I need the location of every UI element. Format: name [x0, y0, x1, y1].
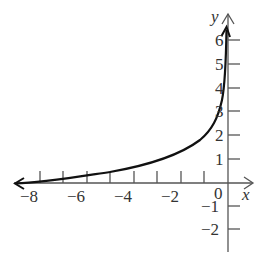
x-ticks: [40, 171, 204, 183]
x-tick-label: −6: [67, 187, 85, 206]
y-ticks: [228, 40, 240, 229]
x-tick-label: −2: [161, 187, 179, 206]
x-tick-label: −4: [114, 187, 133, 206]
x-axis-label: x: [241, 185, 250, 204]
y-tick-label: 1: [215, 150, 224, 169]
y-tick-label: −2: [201, 220, 219, 239]
y-axis-label: y: [209, 7, 219, 26]
y-tick-label: 4: [215, 79, 224, 98]
y-tick-label: 6: [215, 31, 224, 50]
graph-canvas: −8 −6 −4 −2 0 x y 6 5 4 3 2 1 −1 −2: [0, 0, 272, 258]
x-tick-label: −8: [20, 187, 38, 206]
function-curve: [16, 30, 227, 184]
y-tick-label: 3: [215, 102, 224, 121]
y-tick-label: 2: [215, 126, 224, 145]
graph: −8 −6 −4 −2 0 x y 6 5 4 3 2 1 −1 −2: [0, 0, 272, 258]
y-tick-label: −1: [201, 197, 219, 216]
y-tick-label: 5: [215, 55, 224, 74]
